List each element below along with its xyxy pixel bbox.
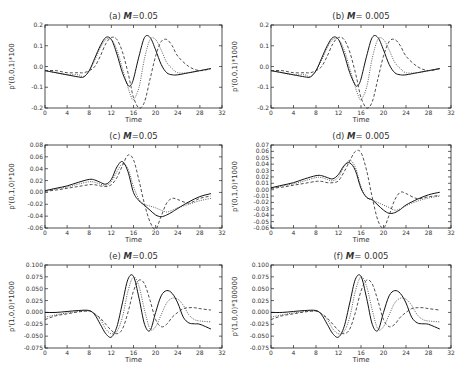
x-tick-label: 4 [65, 109, 69, 116]
y-tick-label: -0.075 [24, 344, 44, 351]
y-tick-label: 0.08 [30, 141, 44, 148]
x-tick-label: 28 [425, 109, 433, 116]
y-tick-label: 0.02 [30, 177, 44, 184]
panel-b: (b) M= 0.005048121620242832-0.2-0.10.00.… [231, 11, 455, 124]
series-dashed [45, 280, 211, 334]
x-tick-label: 20 [152, 229, 160, 236]
y-axis-label: p'(1,0,0)*100000 [231, 277, 239, 337]
y-tick-label: 0.025 [252, 297, 269, 304]
series-solid [45, 35, 211, 86]
x-tick-label: 24 [402, 229, 410, 236]
y-tick-label: -0.2 [31, 104, 43, 111]
y-tick-label: 0.07 [256, 141, 270, 148]
series-dotted [45, 38, 211, 100]
x-tick-label: 28 [425, 229, 433, 236]
plot-frame [45, 25, 222, 108]
x-tick-label: 12 [108, 349, 116, 356]
figure-canvas: (a) M=0.05048121620242832-0.2-0.10.00.10… [0, 0, 466, 371]
y-tick-label: -0.050 [24, 332, 44, 339]
x-tick-label: 0 [43, 109, 47, 116]
x-tick-label: 16 [130, 229, 138, 236]
y-tick-label: 0.00 [256, 186, 270, 193]
y-tick-label: 0.000 [252, 308, 269, 315]
y-tick-label: 0.06 [256, 147, 270, 154]
x-tick-label: 24 [174, 109, 182, 116]
series-dotted [45, 277, 211, 334]
x-tick-label: 0 [269, 109, 273, 116]
panel-title: (f) M= 0.005 [334, 251, 389, 261]
x-tick-label: 16 [357, 229, 365, 236]
series-solid [271, 163, 440, 214]
y-tick-label: -0.1 [257, 83, 269, 90]
y-axis-label: p'(0,1,0)*1000 [231, 161, 239, 212]
y-tick-label: 0.100 [26, 261, 43, 268]
series-dotted [271, 277, 440, 334]
y-tick-label: 0.05 [256, 154, 270, 161]
y-tick-label: 0.00 [30, 188, 44, 195]
x-tick-label: 4 [292, 229, 296, 236]
x-tick-label: 16 [130, 109, 138, 116]
x-tick-label: 8 [314, 349, 318, 356]
x-tick-label: 12 [108, 229, 116, 236]
x-axis-label: Time [124, 356, 142, 364]
y-tick-label: -0.1 [31, 83, 43, 90]
series-dotted [271, 160, 440, 210]
y-tick-label: 0.075 [252, 273, 269, 280]
x-tick-label: 20 [380, 349, 388, 356]
series-solid [45, 161, 211, 216]
panel-c: (c) M=0.05048121620242832-0.06-0.04-0.02… [8, 131, 226, 244]
y-tick-label: 0.050 [252, 285, 269, 292]
y-tick-label: 0.025 [26, 297, 43, 304]
y-tick-label: 0.0 [259, 63, 269, 70]
x-tick-label: 4 [292, 349, 296, 356]
x-tick-label: 20 [380, 229, 388, 236]
x-tick-label: 32 [447, 349, 455, 356]
y-axis-label: p'(1,0,0)*1000 [8, 281, 16, 332]
x-tick-label: 32 [218, 349, 226, 356]
y-tick-label: -0.02 [253, 198, 269, 205]
x-tick-label: 0 [269, 349, 273, 356]
x-tick-label: 28 [425, 349, 433, 356]
series-dashed [271, 37, 440, 108]
y-tick-label: 0.000 [26, 308, 43, 315]
y-tick-label: -0.06 [253, 224, 269, 231]
x-axis-label: Time [124, 236, 142, 244]
series-dashed [271, 280, 440, 334]
y-tick-label: -0.075 [250, 344, 270, 351]
x-axis-label: Time [351, 356, 369, 364]
x-tick-label: 4 [65, 349, 69, 356]
y-axis-label: p'(0,0,1)*100 [8, 43, 16, 90]
x-tick-label: 16 [130, 349, 138, 356]
x-tick-label: 28 [196, 109, 204, 116]
x-tick-label: 20 [152, 349, 160, 356]
series-dashed [45, 155, 211, 230]
y-tick-label: -0.050 [250, 332, 270, 339]
x-tick-label: 8 [87, 109, 91, 116]
figure: (a) M=0.05048121620242832-0.2-0.10.00.10… [0, 0, 466, 371]
x-tick-label: 8 [87, 349, 91, 356]
x-tick-label: 4 [65, 229, 69, 236]
x-tick-label: 24 [174, 229, 182, 236]
panel-title: (e) M=0.05 [109, 251, 158, 261]
x-tick-label: 8 [314, 229, 318, 236]
y-tick-label: -0.025 [24, 320, 44, 327]
x-axis-label: Time [351, 116, 369, 124]
x-tick-label: 20 [152, 109, 160, 116]
series-dotted [271, 38, 440, 100]
panel-f: (f) M= 0.005048121620242832-0.075-0.050-… [231, 251, 455, 364]
panel-title: (b) M= 0.005 [332, 11, 389, 21]
y-tick-label: -0.03 [253, 205, 269, 212]
panel-e: (e) M=0.05048121620242832-0.075-0.050-0.… [8, 251, 226, 364]
x-tick-label: 8 [87, 229, 91, 236]
series-solid [271, 35, 440, 86]
x-tick-label: 16 [357, 349, 365, 356]
panel-title: (d) M= 0.005 [332, 131, 389, 141]
x-tick-label: 24 [402, 109, 410, 116]
y-tick-label: -0.04 [27, 212, 43, 219]
y-tick-label: 0.2 [33, 21, 43, 28]
x-tick-label: 32 [218, 229, 226, 236]
y-tick-label: 0.0 [33, 63, 43, 70]
x-axis-label: Time [124, 116, 142, 124]
x-tick-label: 12 [108, 109, 116, 116]
y-tick-label: 0.06 [30, 153, 44, 160]
